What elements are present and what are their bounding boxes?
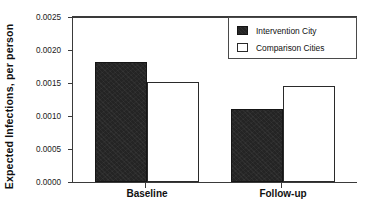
bar-baseline-comparison [147,82,199,182]
legend-label-intervention: Intervention City [256,26,317,36]
bar-baseline-intervention [95,62,147,182]
y-tick-0.0020: 0.0020 [68,50,73,51]
y-tick-label: 0.0020 [36,46,61,55]
y-tick-label: 0.0025 [36,13,61,22]
y-tick-0.0005: 0.0005 [68,149,73,150]
y-tick-0.0015: 0.0015 [68,83,73,84]
y-tick-0.0010: 0.0010 [68,116,73,117]
legend-entry-intervention: Intervention City [237,22,350,39]
x-label-followup: Follow-up [259,188,306,199]
y-axis-title: Expected Infections, per person [0,0,18,213]
y-tick-label: 0.0015 [36,79,61,88]
bar-followup-intervention [231,109,283,182]
legend-swatch-filled-square-icon [237,26,248,35]
legend-swatch-open-square-icon [237,43,248,52]
chart-figure: Expected Infections, per person 0.0025 0… [0,0,371,213]
chart-legend: Intervention City Comparison Cities [228,17,357,59]
y-tick-label: 0.0005 [36,145,61,154]
y-tick-0.0025: 0.0025 [68,17,73,18]
y-tick-0.0000: 0.0000 [68,182,73,183]
legend-entry-comparison: Comparison Cities [237,39,350,56]
x-label-baseline: Baseline [126,188,167,199]
bar-followup-comparison [283,86,335,182]
y-tick-label: 0.0010 [36,112,61,121]
y-tick-label: 0.0000 [36,178,61,187]
legend-label-comparison: Comparison Cities [256,43,324,53]
